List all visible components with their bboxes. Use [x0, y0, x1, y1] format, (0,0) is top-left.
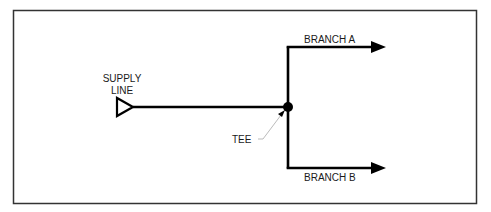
branch-b-label: BRANCH B — [304, 172, 356, 183]
tee-leader-line — [258, 115, 281, 139]
tee-leader-arrow-icon — [278, 110, 285, 117]
tee-diagram: SUPPLY LINE TEE BRANCH A BRANCH B — [0, 0, 491, 212]
supply-source-icon — [117, 98, 133, 116]
supply-label-line1: SUPPLY — [103, 73, 142, 84]
branch-a-arrow-icon — [371, 41, 386, 53]
branch-b-arrow-icon — [371, 162, 386, 174]
branch-a-label: BRANCH A — [304, 34, 355, 45]
supply-label-line2: LINE — [111, 85, 134, 96]
tee-label: TEE — [232, 134, 252, 145]
